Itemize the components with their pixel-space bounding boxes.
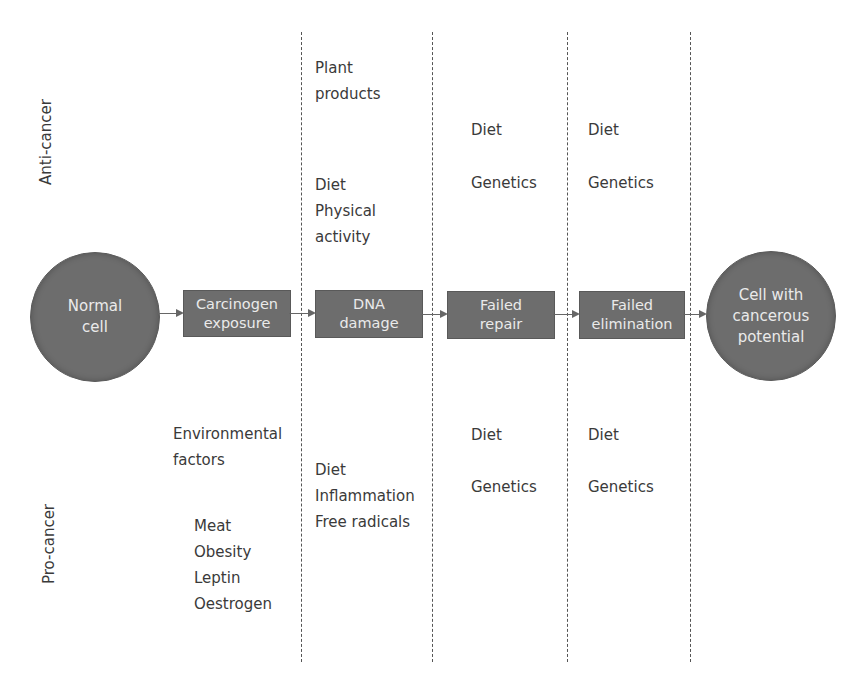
pro-carcinogen-environmental: Environmental factors	[173, 421, 282, 473]
anti-elimination-genetics: Genetics	[588, 170, 654, 196]
anti-repair-genetics: Genetics	[471, 170, 537, 196]
anti-elimination-diet: Diet	[588, 117, 619, 143]
anti-repair-diet: Diet	[471, 117, 502, 143]
pro-repair-genetics: Genetics	[471, 474, 537, 500]
pro-carcinogen-list: Meat Obesity Leptin Oestrogen	[194, 513, 272, 617]
cancerous-cell-node: Cell with cancerous potential	[706, 251, 836, 381]
carcinogen-exposure-node: Carcinogen exposure	[183, 290, 291, 337]
stage-divider-2	[432, 32, 433, 662]
stage-divider-3	[567, 32, 568, 662]
stage-divider-1	[301, 32, 302, 662]
dna-damage-node: DNA damage	[315, 290, 423, 338]
stage-divider-4	[690, 32, 691, 662]
failed-repair-node: Failed repair	[447, 291, 555, 339]
dna-damage-label: DNA damage	[339, 295, 398, 333]
arrow-icon	[289, 313, 314, 314]
failed-repair-label: Failed repair	[480, 296, 523, 334]
anti-dna-damage-plant-products: Plant products	[315, 55, 381, 107]
pro-elimination-genetics: Genetics	[588, 474, 654, 500]
arrow-icon	[158, 313, 182, 314]
pro-elimination-diet: Diet	[588, 422, 619, 448]
anti-cancer-label: Anti-cancer	[37, 97, 55, 187]
arrow-icon	[683, 314, 705, 315]
anti-dna-damage-diet-activity: Diet Physical activity	[315, 172, 376, 250]
normal-cell-label: Normal cell	[68, 296, 122, 338]
pro-dna-damage-list: Diet Inflammation Free radicals	[315, 457, 415, 535]
pro-cancer-label: Pro-cancer	[40, 499, 58, 589]
cancerous-cell-label: Cell with cancerous potential	[733, 285, 810, 348]
arrow-icon	[553, 314, 578, 315]
pro-repair-diet: Diet	[471, 422, 502, 448]
arrow-icon	[421, 314, 446, 315]
carcinogen-exposure-label: Carcinogen exposure	[196, 295, 278, 333]
failed-elimination-node: Failed elimination	[579, 291, 685, 339]
normal-cell-node: Normal cell	[30, 252, 160, 382]
failed-elimination-label: Failed elimination	[592, 296, 673, 334]
